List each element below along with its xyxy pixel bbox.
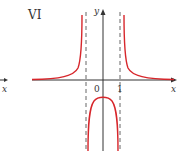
tick-label-1: 1 [117, 84, 123, 94]
function-graph: VI y x x 0 1 [0, 0, 180, 151]
curve-left-branch [32, 15, 82, 80]
x-axis-label: x [171, 84, 176, 94]
y-axis-arrow-icon [101, 9, 106, 15]
y-axis-label: y [93, 6, 100, 16]
fragment-arrow-icon [4, 78, 8, 82]
panel-label: VI [27, 8, 42, 22]
origin-label: 0 [94, 84, 100, 94]
curve-right-branch [124, 15, 174, 80]
fragment-x-label: x [2, 84, 7, 94]
